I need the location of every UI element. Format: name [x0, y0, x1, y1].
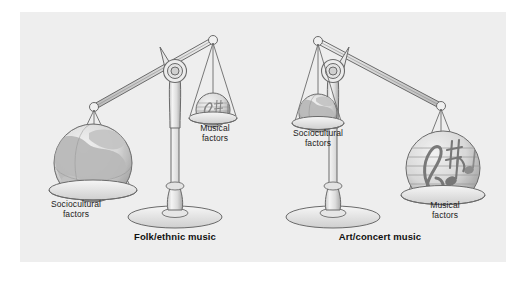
label-musical-factors-left: Musical factors	[180, 124, 250, 143]
scale-pivot-left	[160, 47, 187, 83]
label-sociocultural-factors-right: Sociocultural factors	[272, 129, 364, 148]
label-musical-factors-right: Musical factors	[410, 201, 480, 220]
pan-musical-right	[401, 102, 485, 206]
label-sociocultural-factors-left: Sociocultural factors	[30, 200, 122, 219]
caption-art-concert-music: Art/concert music	[305, 231, 455, 242]
balance-scales-figure: Sociocultural factors Musical factors Fo…	[0, 0, 526, 281]
pan-sociocultural-left	[49, 103, 137, 203]
caption-folk-ethnic-music: Folk/ethnic music	[110, 231, 240, 242]
